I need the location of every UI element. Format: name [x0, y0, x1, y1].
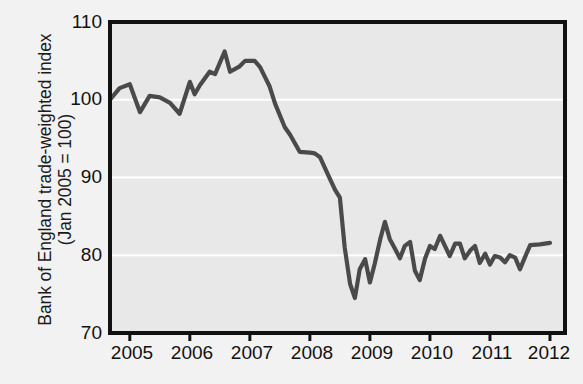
y-tick-label-70: 70	[56, 322, 102, 344]
y-tick-label-80: 80	[56, 244, 102, 266]
y-tick-label-90: 90	[56, 166, 102, 188]
chart-canvas: Bank of England trade-weighted index (Ja…	[0, 0, 583, 384]
x-tick-label-2012: 2012	[514, 342, 583, 364]
chart-figure: Bank of England trade-weighted index (Ja…	[0, 0, 583, 384]
y-tick-label-100: 100	[56, 88, 102, 110]
y-tick-label-110: 110	[56, 11, 102, 33]
